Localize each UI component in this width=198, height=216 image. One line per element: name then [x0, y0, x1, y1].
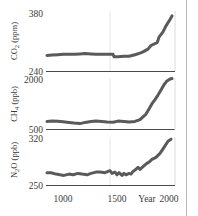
- ch4-axis-title: CH4 (ppb): [9, 86, 20, 122]
- page-edge-line: [186, 0, 187, 216]
- co2-axis-title-species: CO: [9, 48, 19, 60]
- x-axis: 1000 1500 Year 2000: [54, 194, 179, 204]
- n2o-axis-title-unit: (ppb): [9, 142, 19, 161]
- co2-axis-title-unit: (ppm): [9, 22, 19, 43]
- svg-text:CH4 (ppb): CH4 (ppb): [9, 86, 20, 122]
- svg-text:N2O (ppb): N2O (ppb): [9, 142, 20, 178]
- co2-ytick-top: 380: [29, 9, 44, 19]
- n2o-ytick-bottom: 250: [29, 181, 44, 191]
- panel-co2: 380 240 CO2 (ppm): [9, 9, 175, 77]
- n2o-ytick-top: 320: [29, 134, 44, 144]
- ch4-axis-title-species: CH: [9, 110, 19, 122]
- climate-chart-svg: 380 240 CO2 (ppm) 2000 500 CH4 (ppb): [0, 0, 198, 216]
- xtick-2000: 2000: [160, 194, 179, 204]
- panel-n2o: 320 250 N2O (ppb): [9, 134, 175, 191]
- n2o-axis-title: N2O (ppb): [9, 142, 20, 178]
- greenhouse-gas-figure: 380 240 CO2 (ppm) 2000 500 CH4 (ppb): [0, 0, 198, 216]
- ch4-ytick-top: 2000: [24, 75, 43, 85]
- xtick-1500: 1500: [108, 194, 127, 204]
- svg-text:CO2 (ppm): CO2 (ppm): [9, 22, 20, 60]
- panel-ch4: 2000 500 CH4 (ppb): [9, 75, 175, 135]
- ch4-axis-title-unit: (ppb): [9, 86, 19, 105]
- xtick-1000: 1000: [54, 194, 73, 204]
- x-axis-title: Year: [138, 194, 156, 204]
- co2-axis-title: CO2 (ppm): [9, 22, 20, 60]
